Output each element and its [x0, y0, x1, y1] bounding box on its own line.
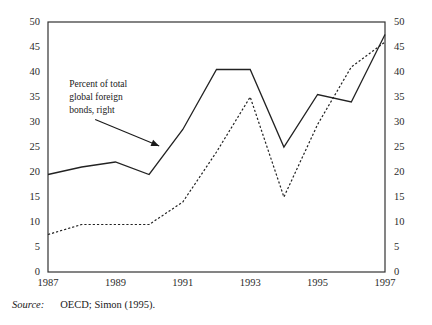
y-tick-right-45: 45 — [394, 42, 416, 53]
x-tick-1993: 1993 — [228, 278, 272, 289]
y-tick-right-15: 15 — [394, 192, 416, 203]
y-tick-right-5: 5 — [394, 242, 416, 253]
y-tick-right-35: 35 — [394, 92, 416, 103]
x-tick-1997: 1997 — [363, 278, 407, 289]
x-tick-1991: 1991 — [161, 278, 205, 289]
annotation-line-1: Percent of total — [69, 78, 127, 91]
line-chart — [0, 0, 432, 325]
x-tick-1987: 1987 — [26, 278, 70, 289]
y-tick-left-35: 35 — [18, 92, 40, 103]
annotation-line-2: global foreign — [69, 91, 127, 104]
y-tick-right-0: 0 — [394, 267, 416, 278]
figure-container: Percent of total global foreign bonds, r… — [0, 0, 432, 325]
y-tick-right-30: 30 — [394, 117, 416, 128]
chart-annotation: Percent of total global foreign bonds, r… — [69, 78, 127, 117]
y-tick-left-5: 5 — [18, 242, 40, 253]
y-tick-right-50: 50 — [394, 17, 416, 28]
y-tick-right-25: 25 — [394, 142, 416, 153]
y-tick-left-20: 20 — [18, 167, 40, 178]
source-label: Source: — [12, 299, 44, 310]
y-tick-left-45: 45 — [18, 42, 40, 53]
annotation-line-3: bonds, right — [69, 104, 127, 117]
y-tick-right-20: 20 — [394, 167, 416, 178]
y-tick-right-40: 40 — [394, 67, 416, 78]
y-tick-left-30: 30 — [18, 117, 40, 128]
y-tick-left-10: 10 — [18, 217, 40, 228]
y-tick-left-50: 50 — [18, 17, 40, 28]
source-text: OECD; Simon (1995). — [60, 299, 155, 310]
x-tick-1989: 1989 — [93, 278, 137, 289]
y-tick-left-40: 40 — [18, 67, 40, 78]
x-tick-1995: 1995 — [296, 278, 340, 289]
y-tick-left-0: 0 — [18, 267, 40, 278]
y-tick-left-15: 15 — [18, 192, 40, 203]
y-tick-left-25: 25 — [18, 142, 40, 153]
source-note: Source:OECD; Simon (1995). — [12, 299, 155, 310]
chart-background — [0, 0, 432, 325]
y-tick-right-10: 10 — [394, 217, 416, 228]
